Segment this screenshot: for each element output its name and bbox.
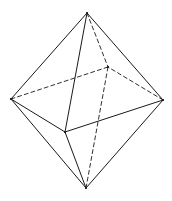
visible-edge-top-right bbox=[87, 13, 163, 100]
hidden-edges bbox=[11, 13, 163, 188]
hidden-edge-top-back bbox=[87, 13, 108, 67]
visible-edge-left-bottom bbox=[11, 99, 86, 188]
vertex-left bbox=[10, 98, 12, 100]
visible-edge-top-left bbox=[11, 13, 87, 99]
vertex-back bbox=[107, 66, 109, 68]
hidden-edge-right-back bbox=[108, 67, 163, 100]
vertices bbox=[10, 12, 164, 189]
vertex-right bbox=[162, 99, 164, 101]
octahedron-drawing bbox=[0, 0, 172, 201]
hidden-edge-back-bottom bbox=[86, 67, 108, 188]
visible-edge-right-front bbox=[65, 100, 163, 132]
visible-edge-top-front bbox=[65, 13, 87, 132]
visible-edges bbox=[11, 13, 163, 188]
vertex-bottom bbox=[85, 187, 87, 189]
visible-edge-left-front bbox=[11, 99, 65, 132]
vertex-front bbox=[64, 131, 66, 133]
vertex-top bbox=[86, 12, 88, 14]
visible-edge-right-bottom bbox=[86, 100, 163, 188]
visible-edge-front-bottom bbox=[65, 132, 86, 188]
